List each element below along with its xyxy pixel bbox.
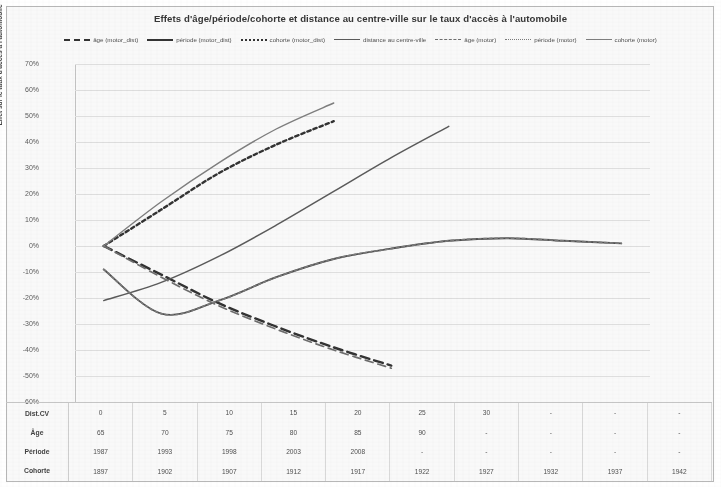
legend-label: période (motor_dist) (176, 36, 231, 43)
table-cell: 1897 (69, 462, 133, 482)
y-axis-tick-label: 50% (5, 112, 39, 119)
legend-label: âge (motor_dist) (93, 36, 138, 43)
x-axis-data-table: 051015202530---657075808590----198719931… (6, 402, 712, 481)
legend-item-periode-motor: période (motor) (505, 36, 576, 43)
table-cell: 1927 (454, 462, 518, 482)
table-cell: - (583, 423, 647, 443)
y-axis-tick-label: 20% (5, 190, 39, 197)
series-line (104, 238, 622, 315)
y-axis-tick-label: 0% (5, 242, 39, 249)
series-line (104, 121, 334, 246)
y-axis-title: Effet sur le taux d'accès à l'automobile (0, 0, 3, 150)
table-cell: 1922 (390, 462, 454, 482)
table-cell: 1998 (197, 442, 261, 462)
table-cell: 1917 (326, 462, 390, 482)
table-cell: 70 (133, 423, 197, 443)
table-cell: 90 (390, 423, 454, 443)
table-cell: 65 (69, 423, 133, 443)
table-cell: - (454, 423, 518, 443)
table-cell: - (390, 442, 454, 462)
table-cell: 15 (261, 403, 325, 423)
table-row: 051015202530--- (6, 403, 712, 423)
table-cell: - (519, 442, 583, 462)
y-axis-tick-label: 60% (5, 86, 39, 93)
table-cell: - (647, 403, 711, 423)
table-cell: 5 (133, 403, 197, 423)
table-cell: - (454, 442, 518, 462)
table-cell: 1902 (133, 462, 197, 482)
y-axis-tick-label: 40% (5, 138, 39, 145)
legend-item-cohorte-motor-dist: cohorte (motor_dist) (241, 36, 325, 43)
table-cell: 1937 (583, 462, 647, 482)
table-cell: - (583, 442, 647, 462)
table-cell: - (519, 403, 583, 423)
legend-label: distance au centre-ville (363, 36, 426, 43)
legend-label: âge (motor) (464, 36, 496, 43)
table-cell: 85 (326, 423, 390, 443)
table-cell: 75 (197, 423, 261, 443)
legend-label: cohorte (motor) (615, 36, 657, 43)
legend-item-periode-motor-dist: période (motor_dist) (147, 36, 231, 43)
chart-legend: âge (motor_dist) période (motor_dist) co… (0, 36, 721, 43)
chart-screenshot: Effets d'âge/période/cohorte et distance… (0, 0, 721, 487)
y-axis-tick-label: -40% (5, 346, 39, 353)
series-line (104, 238, 622, 315)
legend-item-cohorte-motor: cohorte (motor) (586, 36, 657, 43)
table-cell: 1912 (261, 462, 325, 482)
legend-item-age-motor: âge (motor) (435, 36, 496, 43)
series-curves (75, 64, 650, 402)
table-row-spacer (6, 442, 69, 462)
plot-area (75, 64, 650, 402)
table-cell: - (519, 423, 583, 443)
table-cell: - (647, 442, 711, 462)
y-axis-tick-label: -20% (5, 294, 39, 301)
chart-title: Effets d'âge/période/cohorte et distance… (0, 13, 721, 24)
table-cell: 80 (261, 423, 325, 443)
table-row-spacer (6, 462, 69, 482)
table-cell: 2008 (326, 442, 390, 462)
table-cell: 1942 (647, 462, 711, 482)
table-cell: - (583, 403, 647, 423)
y-axis-tick-label: -10% (5, 268, 39, 275)
table-cell: 0 (69, 403, 133, 423)
table-row: 1897190219071912191719221927193219371942 (6, 462, 712, 482)
table-cell: 10 (197, 403, 261, 423)
y-axis-tick-label: -30% (5, 320, 39, 327)
table-row: 19871993199820032008----- (6, 442, 712, 462)
legend-item-distance-centre-ville: distance au centre-ville (334, 36, 426, 43)
table-cell: 25 (390, 403, 454, 423)
legend-label: période (motor) (534, 36, 576, 43)
legend-item-age-motor-dist: âge (motor_dist) (64, 36, 138, 43)
y-axis-tick-label: -50% (5, 372, 39, 379)
table-cell: 30 (454, 403, 518, 423)
table-cell: - (647, 423, 711, 443)
table-cell: 1993 (133, 442, 197, 462)
table-row-spacer (6, 423, 69, 443)
table-cell: 20 (326, 403, 390, 423)
table-row: 657075808590---- (6, 423, 712, 443)
table-cell: 1907 (197, 462, 261, 482)
table-cell: 2003 (261, 442, 325, 462)
y-axis-tick-label: 10% (5, 216, 39, 223)
table-row-spacer (6, 403, 69, 423)
legend-label: cohorte (motor_dist) (270, 36, 325, 43)
table-cell: 1932 (519, 462, 583, 482)
table-cell: 1987 (69, 442, 133, 462)
y-axis-tick-label: 30% (5, 164, 39, 171)
y-axis-tick-label: 70% (5, 60, 39, 67)
